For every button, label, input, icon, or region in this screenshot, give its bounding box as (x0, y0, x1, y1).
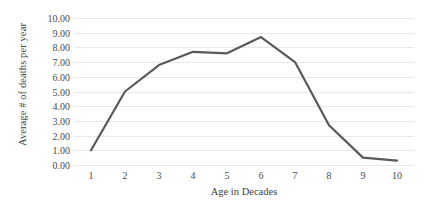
x-axis-tick-label: 4 (178, 170, 208, 181)
y-axis-tick-label: 10.00 (30, 13, 70, 24)
x-axis-tick-label: 5 (212, 170, 242, 181)
y-axis-title: Average # of deaths per year (17, 0, 28, 170)
x-axis-tick-label: 8 (314, 170, 344, 181)
x-axis-tick-label: 9 (348, 170, 378, 181)
y-axis-tick-label: 7.00 (30, 57, 70, 68)
x-axis-tick-label: 6 (246, 170, 276, 181)
y-axis-tick-label: 3.00 (30, 115, 70, 126)
series-line (74, 18, 414, 165)
y-axis-tick-labels: 10.009.008.007.006.005.004.003.002.001.0… (30, 12, 70, 170)
x-axis-tick-label: 1 (76, 170, 106, 181)
y-axis-tick-label: 5.00 (30, 86, 70, 97)
x-axis-tick-label: 7 (280, 170, 310, 181)
y-axis-tick-label: 1.00 (30, 145, 70, 156)
series-polyline (91, 37, 397, 160)
gridline (74, 165, 414, 166)
y-axis-tick-label: 8.00 (30, 42, 70, 53)
y-axis-tick-label: 9.00 (30, 27, 70, 38)
y-axis-tick-label: 0.00 (30, 160, 70, 171)
x-axis-tick-label: 2 (110, 170, 140, 181)
x-axis-tick-labels: 12345678910 (74, 170, 414, 186)
line-chart: Average # of deaths per year 10.009.008.… (0, 0, 428, 213)
x-axis-title: Age in Decades (74, 186, 414, 197)
x-axis-tick-label: 10 (382, 170, 412, 181)
y-axis-tick-label: 6.00 (30, 71, 70, 82)
plot-area (74, 18, 414, 165)
x-axis-tick-label: 3 (144, 170, 174, 181)
y-axis-tick-label: 4.00 (30, 101, 70, 112)
y-axis-tick-label: 2.00 (30, 130, 70, 141)
